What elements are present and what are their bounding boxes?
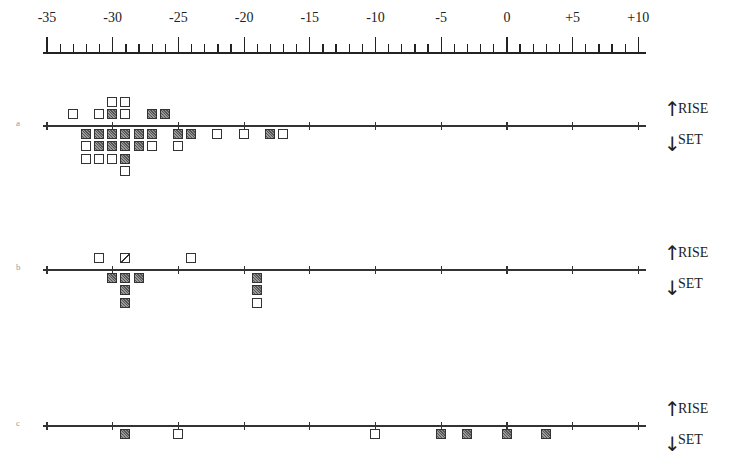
open-square-marker [212, 129, 222, 139]
minor-tick [270, 44, 271, 52]
axis-tick [46, 422, 47, 430]
open-square-marker [94, 253, 104, 263]
axis-tick [506, 266, 507, 274]
minor-tick [519, 44, 520, 52]
filled-square-marker [81, 129, 91, 139]
minor-tick [257, 44, 258, 52]
minor-tick [454, 44, 455, 52]
minor-tick [230, 44, 231, 52]
x-tick-label: 0 [503, 10, 510, 26]
panel-label: b [16, 262, 21, 272]
open-square-marker [120, 97, 130, 107]
filled-square-marker [120, 141, 130, 151]
filled-square-marker [265, 129, 275, 139]
major-tick [441, 37, 442, 52]
open-square-marker [81, 154, 91, 164]
axis-line [43, 125, 646, 127]
open-square-marker [147, 141, 157, 151]
filled-square-marker [94, 129, 104, 139]
axis-tick [46, 122, 47, 130]
axis-tick [572, 122, 573, 130]
ruler-baseline [43, 52, 646, 54]
major-tick [46, 37, 47, 52]
minor-tick [322, 44, 323, 52]
filled-square-marker [436, 429, 446, 439]
axis-tick [112, 422, 113, 430]
filled-square-marker [107, 273, 117, 283]
axis-tick [178, 266, 179, 274]
axis-line [43, 425, 646, 427]
open-square-marker [94, 154, 104, 164]
minor-tick [86, 44, 87, 52]
minor-tick [138, 44, 139, 52]
rise-label: RISE [678, 401, 708, 417]
major-tick [309, 37, 310, 52]
set-label: SET [678, 432, 703, 448]
filled-square-marker [186, 129, 196, 139]
minor-tick [152, 44, 153, 52]
rise-label: RISE [678, 101, 708, 117]
minor-tick [493, 44, 494, 52]
axis-tick [572, 266, 573, 274]
filled-square-marker [120, 298, 130, 308]
open-square-marker [107, 154, 117, 164]
open-square-marker [107, 97, 117, 107]
minor-tick [362, 44, 363, 52]
major-tick [244, 37, 245, 52]
minor-tick [204, 44, 205, 52]
axis-line [43, 269, 646, 271]
filled-square-marker [134, 141, 144, 151]
x-tick-label: -5 [435, 10, 447, 26]
filled-square-marker [252, 285, 262, 295]
axis-tick [244, 266, 245, 274]
open-square-marker [68, 109, 78, 119]
filled-square-marker [107, 141, 117, 151]
filled-square-marker [173, 129, 183, 139]
filled-square-marker [120, 429, 130, 439]
panel-label: c [16, 418, 20, 428]
open-square-marker [94, 109, 104, 119]
minor-tick [283, 44, 284, 52]
x-tick-label: +5 [565, 10, 580, 26]
x-tick-label: +10 [627, 10, 649, 26]
minor-tick [191, 44, 192, 52]
major-tick [112, 37, 113, 52]
x-tick-label: -10 [366, 10, 385, 26]
filled-square-marker [252, 273, 262, 283]
open-square-marker [239, 129, 249, 139]
major-tick [506, 37, 507, 52]
open-square-marker [278, 129, 288, 139]
minor-tick [296, 44, 297, 52]
minor-tick [165, 44, 166, 52]
minor-tick [349, 44, 350, 52]
set-label: SET [678, 132, 703, 148]
open-square-marker [252, 298, 262, 308]
filled-square-marker [120, 273, 130, 283]
filled-square-marker [502, 429, 512, 439]
minor-tick [335, 44, 336, 52]
axis-tick [375, 266, 376, 274]
axis-tick [572, 422, 573, 430]
axis-tick [309, 122, 310, 130]
x-tick-label: -35 [38, 10, 57, 26]
axis-tick [309, 266, 310, 274]
rise-label: RISE [678, 245, 708, 261]
minor-tick [533, 44, 534, 52]
filled-square-marker [107, 109, 117, 119]
filled-square-marker [107, 129, 117, 139]
minor-tick [585, 44, 586, 52]
set-label: SET [678, 276, 703, 292]
filled-square-marker [120, 154, 130, 164]
axis-tick [638, 122, 639, 130]
filled-square-marker [134, 129, 144, 139]
minor-tick [546, 44, 547, 52]
major-tick [572, 37, 573, 52]
open-square-marker [81, 141, 91, 151]
minor-tick [559, 44, 560, 52]
filled-square-marker [462, 429, 472, 439]
minor-tick [427, 44, 428, 52]
axis-tick [244, 422, 245, 430]
minor-tick [414, 44, 415, 52]
filled-square-marker [147, 109, 157, 119]
minor-tick [611, 44, 612, 52]
